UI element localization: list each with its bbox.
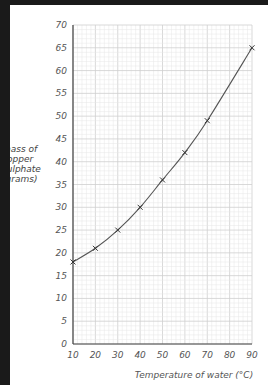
y-tick-label: 65 bbox=[56, 43, 68, 53]
x-tick-label: 50 bbox=[157, 350, 169, 360]
x-tick-label: 20 bbox=[90, 350, 102, 360]
y-tick-label: 30 bbox=[56, 202, 68, 212]
y-tick-label: 20 bbox=[56, 248, 68, 258]
y-axis-label-line: copper bbox=[10, 154, 34, 164]
y-axis-label: mass ofcoppersulphate(grams) bbox=[10, 144, 41, 184]
y-tick-label: 35 bbox=[56, 180, 68, 190]
x-tick-label: 40 bbox=[134, 350, 146, 360]
y-tick-label: 10 bbox=[56, 293, 68, 303]
y-axis-label-line: mass of bbox=[10, 144, 39, 154]
line-chart: 0510152025303540455055606570102030405060… bbox=[10, 5, 268, 385]
x-tick-label: 90 bbox=[246, 350, 258, 360]
x-tick-label: 30 bbox=[112, 350, 124, 360]
tick-labels: 0510152025303540455055606570102030405060… bbox=[56, 20, 258, 360]
chart-page: 0510152025303540455055606570102030405060… bbox=[10, 5, 268, 385]
x-axis-label: Temperature of water (°C) bbox=[135, 370, 253, 380]
y-tick-label: 70 bbox=[56, 20, 68, 30]
grid bbox=[73, 25, 252, 344]
y-tick-label: 0 bbox=[61, 339, 67, 349]
y-axis-label-line: (grams) bbox=[10, 174, 37, 184]
x-tick-label: 70 bbox=[202, 350, 214, 360]
y-tick-label: 60 bbox=[56, 66, 68, 76]
x-tick-label: 10 bbox=[67, 350, 79, 360]
y-tick-label: 25 bbox=[56, 225, 68, 235]
y-tick-label: 15 bbox=[56, 271, 68, 281]
x-tick-label: 60 bbox=[179, 350, 191, 360]
x-tick-label: 80 bbox=[224, 350, 236, 360]
y-tick-label: 55 bbox=[56, 88, 68, 98]
y-tick-label: 5 bbox=[61, 316, 67, 326]
y-axis-label-line: sulphate bbox=[10, 164, 41, 174]
y-tick-label: 45 bbox=[56, 134, 68, 144]
y-tick-label: 40 bbox=[56, 157, 68, 167]
y-tick-label: 50 bbox=[56, 111, 68, 121]
